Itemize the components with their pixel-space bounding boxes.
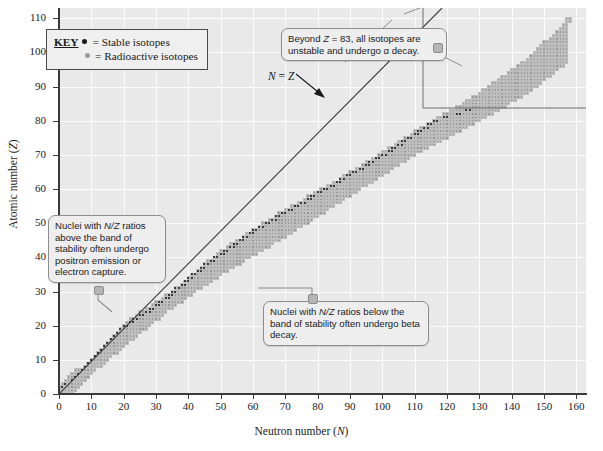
callout-below-tab <box>308 294 318 304</box>
y-tick-label: 30 <box>0 285 46 297</box>
x-tick <box>59 394 60 399</box>
x-tick <box>350 394 351 399</box>
y-tick-label: 90 <box>0 80 46 92</box>
legend-title: KEY <box>54 36 82 48</box>
legend-radio-label: Radioactive isotopes <box>104 50 198 62</box>
y-axis-title-text: Atomic number ( <box>7 150 19 229</box>
x-tick-label: 70 <box>270 400 300 412</box>
y-axis-title: Atomic number (Z) <box>7 94 19 274</box>
x-tick <box>415 394 416 399</box>
x-axis <box>59 393 587 395</box>
y-tick-label: 10 <box>0 353 46 365</box>
y-tick <box>53 155 59 156</box>
y-tick <box>53 87 59 88</box>
y-axis-variable: Z <box>7 143 19 149</box>
x-tick-label: 140 <box>497 400 527 412</box>
y-tick <box>53 292 59 293</box>
legend-stable-label: Stable isotopes <box>102 36 170 48</box>
x-axis-title-text: Neutron number ( <box>255 425 337 437</box>
x-tick <box>124 394 125 399</box>
x-tick <box>544 394 545 399</box>
x-tick <box>156 394 157 399</box>
callout-beyond-z83: Beyond Z = 83, all isotopes are unstable… <box>281 28 447 61</box>
x-tick <box>512 394 513 399</box>
y-tick-label: 20 <box>0 319 46 331</box>
legend-row-stable: KEY= Stable isotopes <box>54 35 198 49</box>
legend-radio-eq: = <box>95 50 101 62</box>
y-tick <box>53 360 59 361</box>
callout-beyond-tab <box>433 43 443 53</box>
x-tick <box>447 394 448 399</box>
x-axis-title-end: ) <box>345 425 349 437</box>
y-tick <box>53 326 59 327</box>
y-tick-label: 100 <box>0 45 46 57</box>
legend-key-box: KEY= Stable isotopes = Radioactive isoto… <box>46 29 208 70</box>
x-tick <box>253 394 254 399</box>
x-tick <box>382 394 383 399</box>
callout-beyond-pre: Beyond <box>288 33 323 44</box>
y-axis-title-end: ) <box>7 139 19 143</box>
x-axis-title: Neutron number (N) <box>0 425 603 437</box>
nz-eq: = <box>276 70 288 82</box>
x-tick-label: 60 <box>238 400 268 412</box>
x-tick <box>91 394 92 399</box>
x-tick-label: 100 <box>367 400 397 412</box>
x-tick <box>221 394 222 399</box>
y-tick <box>53 121 59 122</box>
x-tick <box>576 394 577 399</box>
x-tick-label: 80 <box>303 400 333 412</box>
callout-above-pre: Nuclei with <box>55 220 104 231</box>
callout-below-band: Nuclei with N/Z ratios below the band of… <box>263 301 429 346</box>
x-tick <box>479 394 480 399</box>
x-tick-label: 130 <box>464 400 494 412</box>
callout-above-var: N/Z <box>104 220 119 231</box>
legend-row-radioactive: = Radioactive isotopes <box>54 49 198 63</box>
stable-dot-icon <box>82 39 87 44</box>
x-tick-label: 160 <box>561 400 591 412</box>
y-tick-label: 110 <box>0 11 46 23</box>
callout-below-pre: Nuclei with <box>270 306 319 317</box>
n-equals-z-label: N = Z <box>268 70 294 82</box>
x-axis-variable: N <box>337 425 345 437</box>
band-of-stability-chart: 0102030405060708090100110120130140150160… <box>0 0 603 451</box>
x-tick-label: 30 <box>141 400 171 412</box>
x-tick-label: 90 <box>335 400 365 412</box>
x-tick <box>188 394 189 399</box>
x-tick-label: 50 <box>206 400 236 412</box>
nz-var-z: Z <box>288 70 294 82</box>
callout-above-tab <box>94 286 104 295</box>
x-tick-label: 20 <box>109 400 139 412</box>
x-tick-label: 40 <box>173 400 203 412</box>
y-tick <box>53 18 59 19</box>
y-tick <box>53 394 59 395</box>
callout-below-var: N/Z <box>319 306 334 317</box>
legend-stable-eq: = <box>92 36 98 48</box>
x-tick-label: 120 <box>432 400 462 412</box>
radioactive-dot-icon <box>85 53 90 58</box>
nz-var-n: N <box>268 70 276 82</box>
x-tick-label: 0 <box>44 400 74 412</box>
x-tick <box>318 394 319 399</box>
callout-above-band: Nuclei with N/Z ratios above the band of… <box>48 215 166 283</box>
y-tick <box>53 189 59 190</box>
x-tick-label: 150 <box>529 400 559 412</box>
x-tick <box>285 394 286 399</box>
y-tick-label: 0 <box>0 387 46 399</box>
x-tick-label: 110 <box>400 400 430 412</box>
x-tick-label: 10 <box>76 400 106 412</box>
